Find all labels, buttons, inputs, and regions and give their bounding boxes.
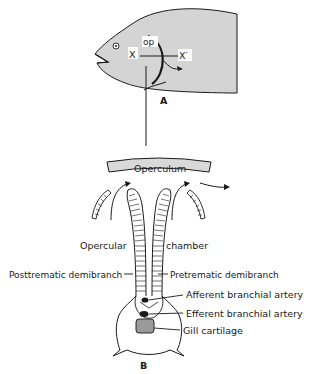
fish-head-body xyxy=(95,9,237,93)
panel-a-label: A xyxy=(160,95,168,106)
outer-filament-right xyxy=(187,190,205,219)
marker-x: X xyxy=(129,49,136,60)
afferent-artery xyxy=(142,297,149,302)
pretrematic-label: Pretrematic demibranch xyxy=(170,270,279,280)
afferent-label: Afferent branchial artery xyxy=(186,289,304,300)
opercular-label: Opercular xyxy=(80,240,127,251)
flow-arrow-left xyxy=(111,184,127,220)
operculum-label: Operculum xyxy=(134,163,186,174)
marker-x-prime: X′ xyxy=(179,50,188,61)
cartilage-label: Gill cartilage xyxy=(183,325,243,336)
flow-arrow-right xyxy=(172,184,186,220)
efferent-label: Efferent branchial artery xyxy=(186,308,303,319)
flow-arrow-exit xyxy=(200,183,226,187)
panel-b-label: B xyxy=(140,360,147,371)
gill-section-panel: Operculum xyxy=(9,153,304,371)
posttrematic-demibranch xyxy=(127,189,146,300)
posttrematic-label: Posttrematic demibranch xyxy=(9,270,122,280)
gill-cartilage xyxy=(136,319,154,333)
outer-filament-left xyxy=(92,190,111,219)
operculum-abbrev: op xyxy=(143,37,155,47)
fish-head-panel: X X′ op A xyxy=(95,9,237,106)
chamber-label: chamber xyxy=(166,240,208,251)
efferent-artery xyxy=(140,311,149,317)
gill-diagram: X X′ op A Operculum xyxy=(0,0,310,374)
